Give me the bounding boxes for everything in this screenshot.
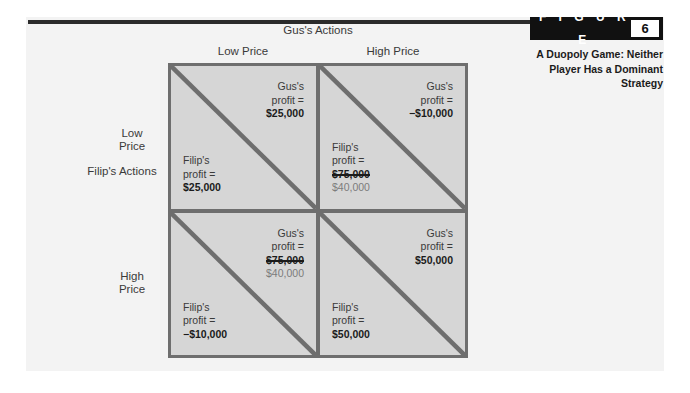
row-header-high-price-line2: Price — [119, 283, 145, 295]
payoff-amount: −$10,000 — [183, 328, 227, 342]
figure-label: F I G U R E — [530, 6, 631, 52]
payoff-gus-high-low: Gus's profit = $75,000 $40,000 — [266, 227, 304, 281]
payoff-who: Filip's — [183, 154, 221, 168]
column-group-title: Gus's Actions — [168, 24, 468, 36]
figure-page: F I G U R E 6 A Duopoly Game: Neither Pl… — [26, 17, 664, 371]
payoff-gus-high-high: Gus's profit = $50,000 — [415, 227, 453, 268]
matrix-cell-low-low: Gus's profit = $25,000 Filip's profit = … — [171, 66, 316, 209]
row-header-low-price-line1: Low — [121, 127, 142, 139]
row-header-high-price: High Price — [104, 270, 160, 296]
figure-badge: F I G U R E 6 — [530, 17, 663, 40]
payoff-label: profit = — [332, 314, 370, 328]
row-group-title: Filip's Actions — [86, 165, 158, 178]
column-header-high-price: High Price — [318, 45, 468, 57]
payoff-gus-low-low: Gus's profit = $25,000 — [266, 80, 304, 121]
matrix-cell-low-high: Gus's profit = −$10,000 Filip's profit =… — [320, 66, 465, 209]
payoff-who: Filip's — [183, 301, 227, 315]
figure-number: 6 — [631, 20, 659, 37]
payoff-amount: −$10,000 — [409, 107, 453, 121]
payoff-who: Gus's — [409, 80, 453, 94]
payoff-amount: $50,000 — [332, 328, 370, 342]
payoff-amount-revision: $40,000 — [332, 181, 370, 195]
payoff-amount: $25,000 — [266, 107, 304, 121]
payoff-amount-struck: $75,000 — [266, 254, 304, 268]
column-header-low-price: Low Price — [168, 45, 318, 57]
payoff-filip-high-low: Filip's profit = −$10,000 — [183, 301, 227, 342]
payoff-label: profit = — [183, 314, 227, 328]
payoff-who: Gus's — [266, 227, 304, 241]
payoff-amount: $50,000 — [415, 254, 453, 268]
payoff-gus-low-high: Gus's profit = −$10,000 — [409, 80, 453, 121]
payoff-label: profit = — [409, 94, 453, 108]
payoff-label: profit = — [332, 154, 370, 168]
payoff-filip-low-high: Filip's profit = $75,000 $40,000 — [332, 141, 370, 195]
row-header-low-price-line2: Price — [119, 140, 145, 152]
payoff-who: Filip's — [332, 301, 370, 315]
payoff-who: Gus's — [266, 80, 304, 94]
row-group-title-line1: Filip's Actions — [87, 165, 156, 177]
row-header-high-price-line1: High — [120, 270, 144, 282]
payoff-who: Filip's — [332, 141, 370, 155]
payoff-label: profit = — [266, 240, 304, 254]
payoff-label: profit = — [266, 94, 304, 108]
matrix-cell-high-high: Gus's profit = $50,000 Filip's profit = … — [320, 213, 465, 356]
payoff-who: Gus's — [415, 227, 453, 241]
payoff-matrix: Gus's profit = $25,000 Filip's profit = … — [168, 63, 468, 358]
figure-caption: A Duopoly Game: Neither Player Has a Dom… — [508, 47, 663, 91]
payoff-amount-struck: $75,000 — [332, 168, 370, 182]
matrix-cell-high-low: Gus's profit = $75,000 $40,000 Filip's p… — [171, 213, 316, 356]
payoff-amount-revision: $40,000 — [266, 267, 304, 281]
payoff-amount: $25,000 — [183, 181, 221, 195]
payoff-filip-low-low: Filip's profit = $25,000 — [183, 154, 221, 195]
payoff-filip-high-high: Filip's profit = $50,000 — [332, 301, 370, 342]
payoff-label: profit = — [415, 240, 453, 254]
payoff-label: profit = — [183, 168, 221, 182]
row-header-low-price: Low Price — [104, 127, 160, 153]
